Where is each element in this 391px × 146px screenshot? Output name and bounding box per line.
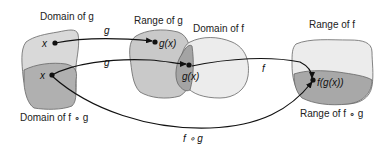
- label-gx-top: g(x): [159, 38, 176, 49]
- label-domain-f: Domain of f: [193, 23, 244, 34]
- composition-diagram: Domain of g Range of g Domain of f Range…: [0, 0, 391, 146]
- point-x-bottom: [49, 72, 54, 77]
- label-fgx: f(g(x)): [317, 77, 344, 88]
- label-x-top: x: [41, 38, 48, 49]
- point-fgx: [310, 77, 315, 82]
- label-domain-g: Domain of g: [40, 11, 94, 22]
- label-domain-fog: Domain of f ∘ g: [20, 112, 88, 123]
- label-f: f: [262, 63, 266, 74]
- label-range-f: Range of f: [309, 19, 355, 30]
- point-x-top: [52, 40, 57, 45]
- point-gx-mid: [186, 62, 191, 67]
- label-range-fog: Range of f ∘ g: [300, 108, 363, 119]
- label-g-top: g: [104, 25, 110, 36]
- label-fog: f ∘ g: [183, 133, 203, 144]
- domain-fog-region: [24, 63, 77, 109]
- label-x-bottom: x: [39, 70, 46, 81]
- label-g-bottom: g: [104, 57, 110, 68]
- label-gx-mid: g(x): [182, 71, 199, 82]
- point-gx-top: [152, 39, 157, 44]
- label-range-g: Range of g: [134, 15, 183, 26]
